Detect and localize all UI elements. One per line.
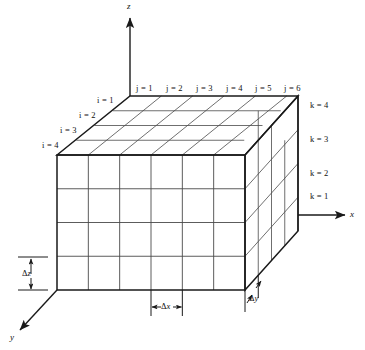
y-axis-label: y xyxy=(10,333,14,342)
j-label-3: j = 3 xyxy=(196,84,213,93)
k-label-1: k = 1 xyxy=(310,192,329,201)
j-label-6: j = 6 xyxy=(284,84,301,93)
delta-y-label: Δy xyxy=(249,294,258,303)
front-face-grid xyxy=(57,155,245,290)
delta-x-label: Δx xyxy=(161,302,170,311)
j-label-1: j = 1 xyxy=(136,84,153,93)
k-label-4: k = 4 xyxy=(310,101,329,110)
j-label-2: j = 2 xyxy=(166,84,183,93)
x-axis-line xyxy=(298,96,345,231)
right-face-grid xyxy=(245,111,298,276)
i-label-4: i = 4 xyxy=(42,141,59,150)
x-axis-label: x xyxy=(350,210,354,219)
i-label-1: i = 1 xyxy=(97,96,114,105)
z-axis-label: z xyxy=(127,2,131,11)
i-label-2: i = 2 xyxy=(79,111,96,120)
k-label-3: k = 3 xyxy=(310,135,329,144)
i-label-3: i = 3 xyxy=(60,126,77,135)
j-label-4: j = 4 xyxy=(226,84,243,93)
figure-canvas: z x y j = 1 j = 2 j = 3 j = 4 j = 5 j = … xyxy=(0,0,365,350)
k-label-2: k = 2 xyxy=(310,169,329,178)
delta-z-label: Δz xyxy=(22,269,31,278)
y-axis-line xyxy=(20,290,57,330)
j-label-5: j = 5 xyxy=(255,84,272,93)
